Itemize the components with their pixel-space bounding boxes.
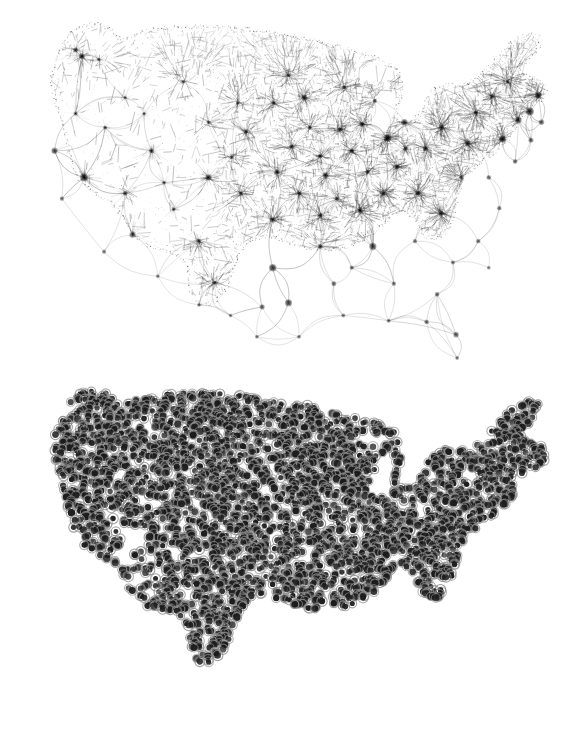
two-panel-us-map-figure (0, 0, 571, 731)
dot-map-canvas (0, 366, 571, 731)
panel-dot-map (0, 366, 571, 731)
network-map-canvas (0, 0, 571, 366)
panel-network-map (0, 0, 571, 366)
